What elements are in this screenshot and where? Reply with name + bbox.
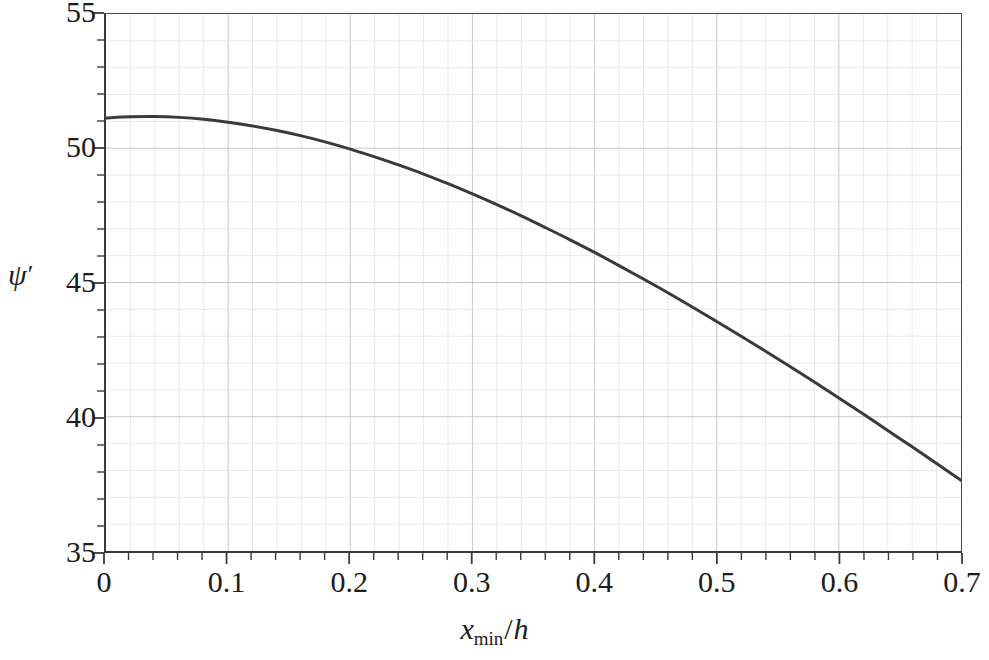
y-axis-title-symbol: ψ	[8, 258, 27, 291]
x-axis-tick-label: 0.5	[657, 567, 777, 597]
chart-figure: 3540455055 00.10.20.30.40.50.60.7 ψ′ xmi…	[0, 0, 989, 660]
y-axis-title: ψ′	[8, 258, 33, 292]
x-axis-title-subscript: min	[474, 628, 504, 649]
y-axis-title-prime: ′	[27, 260, 34, 289]
x-axis-title: xmin/h	[0, 612, 989, 650]
x-axis-tick-label: 0.2	[289, 567, 409, 597]
x-axis-tick-label: 0.4	[534, 567, 654, 597]
x-axis-title-base: x	[460, 612, 473, 645]
x-axis-tick-label: 0.3	[412, 567, 532, 597]
x-axis-tick-label: 0.1	[167, 567, 287, 597]
x-axis-tick-label: 0.7	[902, 567, 989, 597]
x-axis-tick-labels: 00.10.20.30.40.50.60.7	[0, 0, 989, 660]
x-axis-tick-label: 0.6	[779, 567, 899, 597]
x-axis-title-slash: /	[503, 612, 513, 645]
x-axis-title-denominator: h	[514, 612, 529, 645]
x-axis-tick-label: 0	[44, 567, 164, 597]
